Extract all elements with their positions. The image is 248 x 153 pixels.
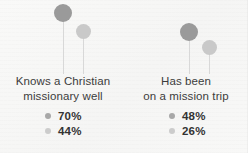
legend-item: 26%: [169, 123, 206, 138]
lollipop-chart-infographic: Knows a Christian missionary well Has be…: [0, 0, 248, 153]
right-edge-divider: [247, 0, 248, 153]
legend-dot-primary-icon: [169, 113, 175, 119]
legend-value: 44%: [58, 125, 82, 137]
legend-dot-primary-icon: [45, 113, 51, 119]
group-label-line1: Knows a Christian: [2, 74, 124, 89]
legend-value: 70%: [58, 110, 82, 122]
legend-value: 48%: [182, 110, 206, 122]
chart-legends: 70% 44% 48% 26%: [0, 108, 248, 153]
group-label-line1: Has been: [126, 74, 246, 89]
lollipop-dot-secondary: [202, 40, 217, 55]
lollipop-mission-trip-primary: [180, 0, 198, 74]
lollipop-dot-secondary: [76, 24, 91, 39]
group-label-knows-missionary: Knows a Christian missionary well: [2, 74, 124, 103]
lollipop-knows-missionary-primary: [54, 0, 72, 74]
lollipop-mission-trip-secondary: [202, 0, 217, 74]
legend-mission-trip: 48% 26%: [169, 108, 206, 138]
chart-group-labels: Knows a Christian missionary well Has be…: [0, 74, 248, 106]
lollipop-dot-primary: [180, 23, 198, 41]
legend-dot-secondary-icon: [169, 128, 175, 134]
legend-value: 26%: [182, 125, 206, 137]
chart-group-knows-missionary: [4, 0, 124, 74]
lollipop-dot-primary: [54, 4, 72, 22]
group-label-line2: missionary well: [2, 89, 124, 104]
legend-item: 48%: [169, 108, 206, 123]
group-label-mission-trip: Has been on a mission trip: [126, 74, 246, 103]
legend-dot-secondary-icon: [45, 128, 51, 134]
legend-item: 70%: [45, 108, 82, 123]
chart-plot-area: [0, 0, 248, 74]
lollipop-knows-missionary-secondary: [76, 0, 91, 74]
legend-item: 44%: [45, 123, 82, 138]
chart-group-mission-trip: [128, 0, 246, 74]
group-label-line2: on a mission trip: [126, 89, 246, 104]
legend-knows-missionary: 70% 44%: [45, 108, 82, 138]
